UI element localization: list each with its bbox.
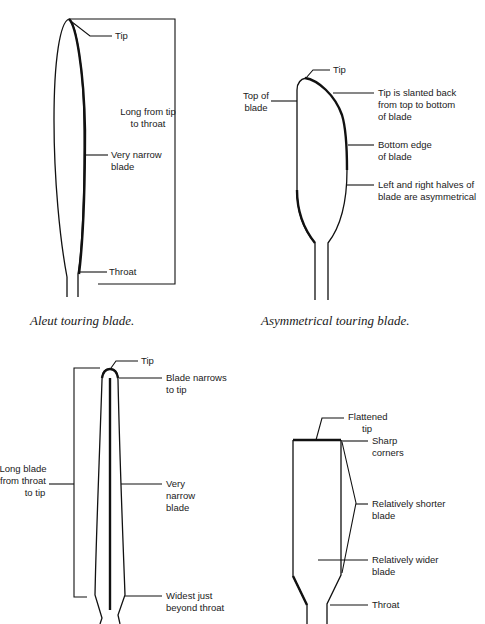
asym-halves-label-1: Left and right halves of: [378, 179, 474, 190]
flat-shorter-label-2: blade: [372, 510, 395, 521]
flat-tip-blade-figure: Flattened tip Sharp corners Relatively s…: [293, 411, 445, 624]
narrow-long-label-3: to tip: [25, 487, 46, 498]
aleut-length-label-1: Long from tip: [120, 106, 175, 117]
flat-tip-label-2: tip: [362, 423, 372, 434]
flat-blade-outline: [293, 440, 307, 624]
flat-throat-label: Throat: [372, 599, 400, 610]
asym-slant-label-2: from top to bottom: [378, 99, 455, 110]
narrow-narrow-label-2: narrow: [166, 490, 195, 501]
narrow-narrow-label-1: Very: [166, 478, 185, 489]
aleut-narrow-label-2: blade: [111, 161, 134, 172]
flat-blade-left-lower: [293, 576, 307, 605]
aleut-blade-edge: [69, 19, 85, 274]
flat-shorter-bracket: [342, 442, 356, 573]
flat-shorter-label-1: Relatively shorter: [372, 498, 445, 509]
narrow-long-label-1: Long blade: [0, 463, 47, 474]
asym-caption: Asymmetrical touring blade.: [260, 313, 409, 328]
narrow-long-blade-figure: Tip Blade narrows to tip Long blade from…: [0, 355, 227, 624]
narrow-long-label-2: from throat: [0, 475, 46, 486]
narrow-widest-label-2: beyond throat: [166, 602, 224, 613]
asym-top-label-2: blade: [244, 102, 267, 113]
asym-bottom-label-2: of blade: [378, 151, 412, 162]
aleut-narrow-label-1: Very narrow: [111, 149, 162, 160]
asym-slant-label-3: of blade: [378, 111, 412, 122]
aleut-caption: Aleut touring blade.: [29, 313, 134, 328]
narrow-tip-leader: [111, 361, 138, 368]
flat-wider-label-1: Relatively wider: [372, 554, 439, 565]
asym-bottom-label-1: Bottom edge: [378, 139, 432, 150]
flat-corners-label-1: Sharp: [372, 435, 397, 446]
asym-tip-leader: [306, 70, 330, 78]
narrow-blade-tip: [102, 369, 118, 378]
narrow-tip-label: Tip: [141, 355, 154, 366]
aleut-throat-label: Throat: [109, 266, 137, 277]
aleut-length-label-2: to throat: [131, 118, 166, 129]
aleut-blade-figure: Tip Long from tip to throat Very narrow …: [29, 19, 176, 328]
narrow-widest-label-1: Widest just: [166, 590, 213, 601]
narrow-narrow-label-3: blade: [166, 502, 189, 513]
asym-blade-left-lower: [297, 190, 315, 243]
asym-slant-label-1: Tip is slanted back: [378, 87, 457, 98]
flat-corners-label-2: corners: [372, 447, 404, 458]
flat-tip-leader: [316, 418, 344, 440]
asym-tip-label: Tip: [333, 64, 346, 75]
narrow-narrows-label-1: Blade narrows: [166, 372, 227, 383]
asym-blade-tip-edge: [305, 78, 347, 170]
aleut-tip-label: Tip: [115, 30, 128, 41]
flat-wider-label-2: blade: [372, 566, 395, 577]
narrow-narrows-label-2: to tip: [166, 384, 187, 395]
paddle-blade-diagram: Tip Long from tip to throat Very narrow …: [0, 0, 485, 624]
asymmetrical-blade-figure: Tip Top of blade Tip is slanted back fro…: [243, 64, 476, 328]
flat-tip-label-1: Flattened: [348, 411, 388, 422]
flat-blade-right: [327, 440, 341, 624]
asym-blade-outline: [297, 78, 315, 300]
asym-blade-bottom-edge: [328, 170, 347, 300]
asym-halves-label-2: blade are asymmetrical: [378, 191, 476, 202]
asym-top-label-1: Top of: [243, 90, 269, 101]
aleut-tip-leader: [72, 22, 112, 36]
